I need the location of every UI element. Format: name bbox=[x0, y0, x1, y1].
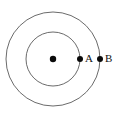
point-a-dot bbox=[77, 56, 83, 62]
center-body-dot bbox=[50, 56, 56, 62]
orbit-diagram: A B bbox=[0, 0, 124, 120]
orbit-diagram-canvas: A B bbox=[0, 0, 124, 120]
point-b-dot bbox=[97, 56, 103, 62]
point-b-label: B bbox=[105, 52, 112, 64]
point-a-label: A bbox=[85, 52, 93, 64]
